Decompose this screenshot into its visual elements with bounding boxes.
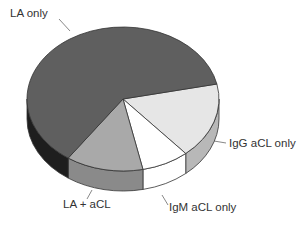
label-la-only: LA only (10, 7, 48, 19)
label-igm-acl-only: IgM aCL only (169, 201, 237, 213)
pie-chart: LA only IgG aCL only IgM aCL only LA + a… (0, 0, 308, 225)
pie-slices (27, 27, 219, 171)
leader-line (214, 141, 226, 143)
label-igg-acl-only: IgG aCL only (229, 137, 296, 149)
leader-line (162, 195, 168, 205)
leader-line (59, 19, 70, 31)
label-la-plus-acl: LA + aCL (63, 198, 111, 210)
